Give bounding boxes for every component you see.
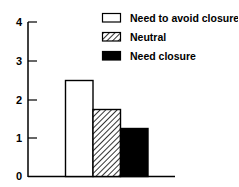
legend-swatch-black (103, 52, 121, 61)
bar-need-closure (121, 129, 149, 177)
bar-chart: 4 3 2 1 0 Need to avoid closure Neutral … (0, 0, 238, 187)
y-tick-label-1: 1 (16, 132, 22, 144)
legend-swatch-hatched (103, 33, 121, 42)
legend-label-need-closure: Need closure (130, 50, 196, 62)
y-tick-label-4: 4 (16, 16, 23, 28)
y-ticks (28, 22, 37, 138)
y-tick-label-3: 3 (16, 55, 22, 67)
y-tick-label-2: 2 (16, 94, 22, 106)
bar-need-to-avoid-closure (66, 81, 94, 177)
legend-label-neutral: Neutral (130, 31, 166, 43)
legend-label-need-to-avoid-closure: Need to avoid closure (130, 12, 238, 24)
bar-neutral (93, 110, 121, 177)
legend: Need to avoid closure Neutral Need closu… (103, 12, 239, 62)
y-tick-label-0: 0 (16, 170, 22, 182)
legend-swatch-white (103, 14, 121, 23)
